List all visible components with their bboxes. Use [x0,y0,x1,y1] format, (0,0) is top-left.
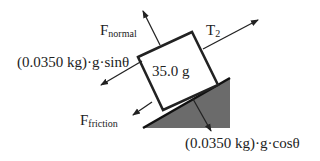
normal-force-arrow [143,11,160,45]
mass-label: 35.0 g [152,64,190,79]
gravity-parallel-label: (0.0350 kg)·g·sinθ [17,55,129,70]
friction-arrow [133,102,152,115]
tension-label: T2 [206,23,220,39]
friction-label: Ffriction [80,113,118,129]
gravity-perpendicular-label: (0.0350 kg)·g·cosθ [185,136,300,151]
normal-force-label: Fnormal [100,23,137,39]
